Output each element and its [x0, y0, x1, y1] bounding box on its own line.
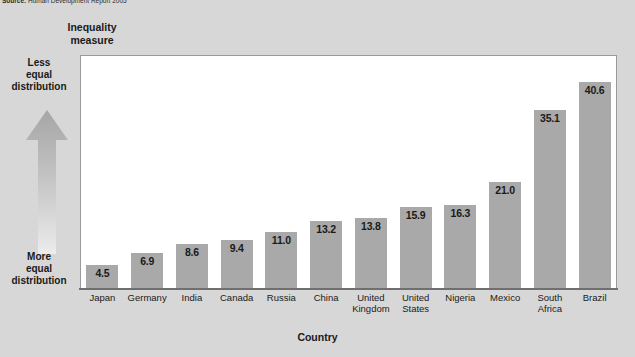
x-tick-label-line: Kingdom [349, 303, 394, 314]
more-equal-caption: More equal distribution [0, 251, 78, 287]
bar-india: 8.6 [176, 244, 208, 288]
bar-series: 4.56.98.69.411.013.213.815.916.321.035.1… [80, 55, 617, 288]
x-tick-label-japan: Japan [80, 292, 125, 303]
bar-japan: 4.5 [86, 265, 118, 288]
bar-rect: 40.6 [579, 82, 611, 288]
bar-united-kingdom: 13.8 [355, 218, 387, 288]
x-axis-line [79, 288, 618, 290]
x-tick-label-india: India [170, 292, 215, 303]
source-label: Source: [2, 0, 26, 4]
x-tick-label-united-states: UnitedStates [393, 292, 438, 314]
x-tick-label-mexico: Mexico [483, 292, 528, 303]
bar-nigeria: 16.3 [444, 205, 476, 288]
chart-figure: Source: Human Development Report 2005 In… [0, 0, 635, 357]
y-axis-title-line2: measure [38, 34, 146, 47]
x-axis-title: Country [0, 331, 635, 343]
bar-value-label: 13.8 [355, 220, 387, 232]
bar-china: 13.2 [310, 221, 342, 288]
x-tick-label-line: United [349, 292, 394, 303]
bar-brazil: 40.6 [579, 82, 611, 288]
x-tick-label-line: Russia [259, 292, 304, 303]
bar-rect: 15.9 [400, 207, 432, 288]
x-tick-label-brazil: Brazil [572, 292, 617, 303]
more-equal-line3: distribution [0, 275, 78, 287]
bar-value-label: 11.0 [265, 234, 297, 246]
x-tick-label-russia: Russia [259, 292, 304, 303]
bar-value-label: 9.4 [221, 242, 253, 254]
bar-germany: 6.9 [131, 253, 163, 288]
bar-value-label: 15.9 [400, 209, 432, 221]
x-tick-label-line: South [528, 292, 573, 303]
bar-value-label: 6.9 [131, 255, 163, 267]
bar-canada: 9.4 [221, 240, 253, 288]
bar-rect: 9.4 [221, 240, 253, 288]
bar-rect: 4.5 [86, 265, 118, 288]
bar-value-label: 21.0 [489, 184, 521, 196]
bar-rect: 16.3 [444, 205, 476, 288]
x-tick-label-line: Nigeria [438, 292, 483, 303]
source-note: Source: Human Development Report 2005 [2, 0, 127, 5]
bar-value-label: 16.3 [444, 207, 476, 219]
less-equal-line1: Less [0, 57, 78, 69]
x-tick-label-united-kingdom: UnitedKingdom [349, 292, 394, 314]
x-tick-label-germany: Germany [125, 292, 170, 303]
bar-value-label: 4.5 [86, 267, 118, 279]
y-axis-title: Inequality measure [38, 21, 146, 46]
x-tick-label-line: States [393, 303, 438, 314]
x-tick-label-line: Brazil [572, 292, 617, 303]
less-equal-caption: Less equal distribution [0, 57, 78, 93]
bar-rect: 35.1 [534, 110, 566, 288]
x-tick-label-line: India [170, 292, 215, 303]
bar-value-label: 35.1 [534, 112, 566, 124]
x-tick-label-line: Germany [125, 292, 170, 303]
bar-rect: 21.0 [489, 182, 521, 288]
less-equal-line3: distribution [0, 81, 78, 93]
bar-value-label: 13.2 [310, 223, 342, 235]
x-tick-label-china: China [304, 292, 349, 303]
x-tick-label-south-africa: SouthAfrica [528, 292, 573, 314]
bar-rect: 13.8 [355, 218, 387, 288]
x-tick-label-line: Japan [80, 292, 125, 303]
x-tick-label-line: Mexico [483, 292, 528, 303]
bar-rect: 8.6 [176, 244, 208, 288]
more-equal-line1: More [0, 251, 78, 263]
bar-rect: 13.2 [310, 221, 342, 288]
x-tick-label-line: China [304, 292, 349, 303]
x-tick-label-line: United [393, 292, 438, 303]
x-tick-label-canada: Canada [214, 292, 259, 303]
x-tick-label-nigeria: Nigeria [438, 292, 483, 303]
bar-south-africa: 35.1 [534, 110, 566, 288]
less-equal-line2: equal [0, 69, 78, 81]
x-tick-label-line: Canada [214, 292, 259, 303]
bar-rect: 6.9 [131, 253, 163, 288]
bar-mexico: 21.0 [489, 182, 521, 288]
y-axis-title-line1: Inequality [38, 21, 146, 34]
bar-value-label: 40.6 [579, 84, 611, 96]
bar-rect: 11.0 [265, 232, 297, 288]
more-equal-line2: equal [0, 263, 78, 275]
x-tick-label-line: Africa [528, 303, 573, 314]
source-text: Human Development Report 2005 [28, 0, 127, 4]
bar-value-label: 8.6 [176, 246, 208, 258]
bar-united-states: 15.9 [400, 207, 432, 288]
bar-russia: 11.0 [265, 232, 297, 288]
up-arrow-gradient-icon [22, 108, 72, 256]
